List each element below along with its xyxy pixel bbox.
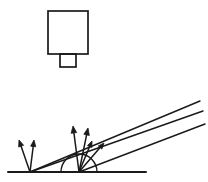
arrow-group bbox=[19, 126, 104, 172]
ray-upper-line bbox=[30, 101, 200, 172]
ray-group bbox=[30, 101, 205, 172]
diagram-svg bbox=[0, 0, 208, 182]
arrow-left-outer bbox=[19, 140, 30, 172]
arrow-right-vertical bbox=[71, 126, 79, 172]
ray-middle-line bbox=[30, 111, 203, 172]
detector-stem-rect bbox=[60, 54, 76, 67]
figure-canvas bbox=[0, 0, 208, 182]
detector-body-rect bbox=[48, 11, 88, 54]
arrow-left-inner bbox=[30, 140, 36, 172]
